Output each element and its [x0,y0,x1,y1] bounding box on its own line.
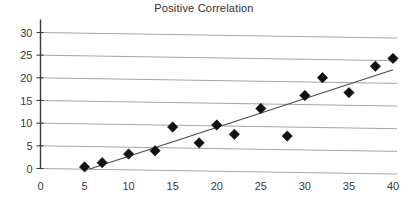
gridline-y-15 [41,101,398,107]
data-point-marker [167,122,177,132]
x-tick-label-10: 10 [123,180,135,192]
y-tick-label-15: 15 [20,95,32,107]
data-point-marker [317,73,327,83]
gridline-y-5 [41,146,398,152]
x-tick-label-0: 0 [37,180,43,192]
data-point-marker [282,131,292,141]
data-point-marker [229,129,239,139]
y-tick-label-0: 0 [26,163,32,175]
data-point-marker [344,87,354,97]
y-tick-label-10: 10 [20,117,32,129]
data-point-marker [194,138,204,148]
x-tick-label-5: 5 [82,180,88,192]
data-point-marker [370,61,380,71]
y-tick-label-5: 5 [26,140,32,152]
x-tick-label-15: 15 [167,180,179,192]
x-tick-label-40: 40 [387,180,399,192]
x-tick-label-25: 25 [255,180,267,192]
gridline-y-30 [41,33,398,39]
y-tick-labels-group: 051015202530 [20,27,32,175]
x-tick-labels-group: 0510152025303540 [37,180,399,192]
data-markers-group [79,53,398,172]
data-point-marker [388,53,398,63]
gridline-y-20 [41,78,398,84]
gridline-y-25 [41,55,398,61]
axes-group [37,20,44,169]
gridline-y-0 [41,169,398,175]
y-tick-label-30: 30 [20,27,32,39]
x-tick-label-20: 20 [211,180,223,192]
y-tick-label-25: 25 [20,49,32,61]
gridlines-group [41,33,398,175]
scatter-chart: Positive Correlation 051015202530 051015… [0,0,408,202]
y-tick-label-20: 20 [20,72,32,84]
trend-line [89,70,393,170]
trendline-group [89,70,393,170]
plot-area: 051015202530 0510152025303540 [0,0,408,202]
x-tick-label-35: 35 [343,180,355,192]
x-tick-label-30: 30 [299,180,311,192]
data-point-marker [79,162,89,172]
